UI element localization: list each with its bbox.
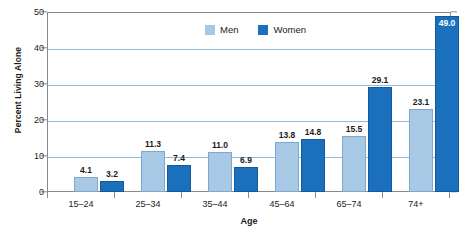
bar-value-men-35-44: 11.0	[200, 140, 240, 150]
x-tick-mark-4	[315, 192, 316, 198]
bar-men-65-74[interactable]	[342, 136, 366, 192]
y-tick-label-50: 50	[10, 7, 44, 17]
x-tick-mark-3	[248, 192, 249, 198]
y-tick-label-10: 10	[10, 151, 44, 161]
y-tick-label-30: 30	[10, 79, 44, 89]
y-tick-label-0: 0	[10, 187, 44, 197]
bar-value-women-35-44: 6.9	[226, 155, 266, 165]
bar-value-men-65-74: 15.5	[334, 124, 374, 134]
x-tick-mark-6	[449, 192, 450, 198]
y-tick-label-40: 40	[10, 43, 44, 53]
bar-value-women-15-24: 3.2	[92, 169, 132, 179]
x-tick-mark-2	[181, 192, 182, 198]
bar-value-women-45-64: 14.8	[293, 127, 333, 137]
bar-value-men-25-34: 11.3	[133, 139, 173, 149]
y-tick-label-20: 20	[10, 115, 44, 125]
bar-group-74-plus: 23.1 49.0	[406, 12, 462, 192]
bar-group-65-74: 15.5 29.1	[339, 12, 395, 192]
bar-women-15-24[interactable]	[100, 181, 124, 193]
bar-men-45-64[interactable]	[275, 142, 299, 192]
bar-men-74-plus[interactable]	[409, 109, 433, 192]
bar-value-men-74-plus: 23.1	[401, 97, 441, 107]
bars-layer: 4.1 3.2 11.3 7.4 11.0 6.9 13.8 14.8 15.5…	[47, 12, 451, 192]
x-tick-label-35-44: 35–44	[180, 199, 250, 209]
bar-value-women-25-34: 7.4	[159, 153, 199, 163]
x-tick-mark-5	[382, 192, 383, 198]
x-axis-ticks	[47, 192, 451, 199]
bar-group-45-64: 13.8 14.8	[272, 12, 328, 192]
x-tick-mark-0	[47, 192, 48, 198]
bar-women-35-44[interactable]	[234, 167, 258, 192]
x-tick-mark-1	[114, 192, 115, 198]
bar-women-25-34[interactable]	[167, 165, 191, 192]
bar-value-women-65-74: 29.1	[360, 75, 400, 85]
bar-group-25-34: 11.3 7.4	[138, 12, 194, 192]
bar-men-15-24[interactable]	[74, 177, 98, 192]
bar-chart: Percent Living Alone 50 40 30 20 10 0 Me…	[0, 0, 473, 237]
bar-group-35-44: 11.0 6.9	[205, 12, 261, 192]
x-tick-label-25-34: 25–34	[113, 199, 183, 209]
x-axis-title: Age	[47, 216, 451, 226]
x-tick-label-15-24: 15–24	[46, 199, 116, 209]
bar-women-45-64[interactable]	[301, 139, 325, 192]
bar-value-women-74-plus: 49.0	[427, 18, 467, 28]
bar-group-15-24: 4.1 3.2	[71, 12, 127, 192]
x-tick-label-65-74: 65–74	[314, 199, 384, 209]
bar-women-65-74[interactable]	[368, 87, 392, 192]
x-tick-label-74-plus: 74+	[381, 199, 451, 209]
x-tick-label-45-64: 45–64	[247, 199, 317, 209]
